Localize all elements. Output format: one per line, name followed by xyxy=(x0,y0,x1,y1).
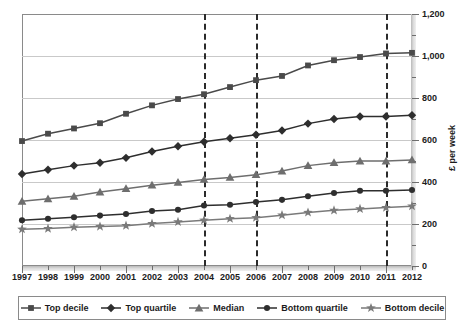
series-line xyxy=(22,206,412,229)
legend-label: Bottom decile xyxy=(385,303,445,313)
data-point xyxy=(69,222,79,231)
data-point xyxy=(409,50,415,56)
data-point xyxy=(409,187,415,193)
data-point xyxy=(44,166,52,174)
legend-marker-star-icon xyxy=(360,302,382,314)
data-point xyxy=(251,213,261,222)
series-bottom-quartile xyxy=(19,187,415,223)
series-line xyxy=(22,115,412,174)
data-point xyxy=(149,102,155,108)
chart-legend: Top decileTop quartileMedianBottom quart… xyxy=(18,296,446,320)
data-point xyxy=(225,214,235,223)
data-point xyxy=(148,147,156,155)
data-point xyxy=(381,203,391,212)
data-point xyxy=(45,131,51,137)
data-point xyxy=(330,115,338,123)
data-point xyxy=(277,210,287,219)
data-point xyxy=(95,221,105,230)
legend-item-bottom-quartile[interactable]: Bottom quartile xyxy=(256,302,348,314)
data-point xyxy=(147,219,157,228)
series-top-decile xyxy=(19,50,415,144)
data-point xyxy=(279,73,285,79)
data-point xyxy=(226,134,234,142)
data-point xyxy=(96,158,104,166)
data-point xyxy=(303,207,313,216)
data-point xyxy=(70,161,78,169)
data-point xyxy=(305,63,311,69)
series-layer xyxy=(0,0,472,331)
series-top-quartile xyxy=(18,111,416,178)
chart-container: 02004006008001,0001,200 1997199819992000… xyxy=(0,0,472,331)
data-point xyxy=(122,154,130,162)
legend-label: Top decile xyxy=(45,303,89,313)
series-line xyxy=(22,53,412,141)
data-point xyxy=(355,204,365,213)
legend-label: Median xyxy=(213,303,244,313)
data-point xyxy=(43,224,53,233)
data-point xyxy=(199,215,209,224)
data-point xyxy=(227,202,233,208)
legend-item-bottom-decile[interactable]: Bottom decile xyxy=(360,302,445,314)
data-point xyxy=(278,126,286,134)
data-point xyxy=(97,213,103,219)
series-line xyxy=(22,160,412,201)
series-median xyxy=(18,156,417,205)
data-point xyxy=(407,201,417,210)
data-point xyxy=(201,91,207,97)
legend-label: Bottom quartile xyxy=(281,303,348,313)
legend-marker-circle-icon xyxy=(256,302,278,314)
data-point xyxy=(45,216,51,222)
data-point xyxy=(357,188,363,194)
data-point xyxy=(279,197,285,203)
data-point xyxy=(331,57,337,63)
legend-item-top-quartile[interactable]: Top quartile xyxy=(100,302,176,314)
data-point xyxy=(121,221,131,230)
legend-label: Top quartile xyxy=(125,303,176,313)
data-point xyxy=(227,84,233,90)
data-point xyxy=(331,190,337,196)
data-point xyxy=(383,51,389,57)
data-point xyxy=(149,208,155,214)
legend-item-top-decile[interactable]: Top decile xyxy=(20,302,89,314)
data-point xyxy=(71,126,77,132)
data-point xyxy=(175,96,181,102)
legend-marker-square-icon xyxy=(20,302,42,314)
legend-item-median[interactable]: Median xyxy=(188,302,244,314)
data-point xyxy=(123,211,129,217)
data-point xyxy=(17,224,27,233)
data-point xyxy=(18,170,26,178)
data-point xyxy=(382,112,390,120)
data-point xyxy=(19,217,25,223)
data-point xyxy=(305,193,311,199)
data-point xyxy=(329,205,339,214)
data-point xyxy=(71,214,77,220)
data-point xyxy=(383,188,389,194)
data-point xyxy=(200,137,208,145)
data-point xyxy=(252,131,260,139)
data-point xyxy=(97,120,103,126)
data-point xyxy=(304,119,312,127)
data-point xyxy=(356,112,364,120)
data-point xyxy=(174,142,182,150)
data-point xyxy=(357,54,363,60)
data-point xyxy=(123,111,129,117)
data-point xyxy=(201,202,207,208)
data-point xyxy=(408,111,416,119)
data-point xyxy=(175,207,181,213)
legend-marker-diamond-icon xyxy=(100,302,122,314)
data-point xyxy=(19,138,25,144)
data-point xyxy=(173,217,183,226)
data-point xyxy=(253,77,259,83)
data-point xyxy=(253,199,259,205)
legend-marker-triangle-icon xyxy=(188,302,210,314)
